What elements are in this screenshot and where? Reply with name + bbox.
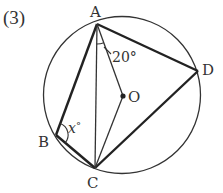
problem-number: (3) bbox=[3, 7, 25, 29]
label-a: A bbox=[89, 3, 101, 21]
segment-bc bbox=[56, 135, 95, 168]
angle-arc-cao bbox=[97, 43, 104, 44]
angle-label-x: x° bbox=[68, 120, 81, 136]
segment-ac bbox=[95, 24, 97, 168]
label-d: D bbox=[202, 61, 214, 79]
segment-ab bbox=[56, 24, 97, 135]
label-c: C bbox=[87, 174, 98, 192]
angle-degree-sign: ° bbox=[76, 120, 81, 131]
label-b: B bbox=[38, 133, 49, 151]
angle-label-20: 20° bbox=[112, 49, 137, 65]
center-point-o bbox=[120, 93, 125, 98]
segment-oc bbox=[95, 96, 123, 168]
label-o: O bbox=[128, 88, 140, 106]
angle-var-x: x bbox=[68, 120, 76, 136]
segment-cd bbox=[95, 71, 198, 168]
circle-geometry-diagram: (3) A B C D O 20° x° bbox=[0, 0, 223, 193]
